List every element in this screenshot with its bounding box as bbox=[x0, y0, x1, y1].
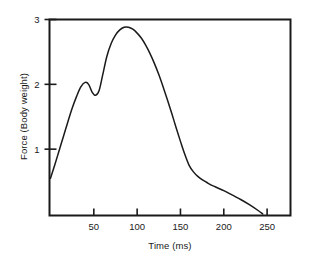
x-axis-ticks: 50100150200250 bbox=[89, 209, 276, 233]
y-axis-ticks: 123 bbox=[34, 14, 56, 155]
x-tick-label: 100 bbox=[129, 221, 145, 232]
x-tick-label: 50 bbox=[89, 221, 100, 232]
x-tick-label: 250 bbox=[259, 221, 275, 232]
plot-canvas: 123 50100150200250 bbox=[0, 0, 310, 263]
y-tick-label: 1 bbox=[34, 144, 39, 155]
y-tick-label: 2 bbox=[34, 79, 39, 90]
plot-frame bbox=[50, 20, 291, 216]
y-tick-label: 3 bbox=[34, 14, 39, 25]
force-time-chart: 123 50100150200250 Force (Body weight) T… bbox=[0, 0, 310, 263]
x-tick-label: 200 bbox=[216, 221, 232, 232]
force-curve bbox=[51, 27, 263, 214]
y-axis-title: Force (Body weight) bbox=[18, 42, 29, 192]
x-axis-title: Time (ms) bbox=[49, 240, 291, 251]
x-tick-label: 150 bbox=[173, 221, 189, 232]
